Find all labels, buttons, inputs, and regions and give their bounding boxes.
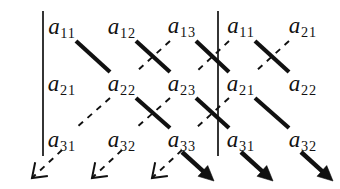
matrix-entry-r2c4: a21 xyxy=(227,72,255,97)
solid-arrow-shaft xyxy=(241,152,265,174)
solid-arrow-shaft xyxy=(182,152,206,174)
entry-base: a xyxy=(48,127,60,152)
entry-subscript: 32 xyxy=(120,138,136,154)
entry-subscript: 11 xyxy=(239,24,255,40)
entry-subscript: 21 xyxy=(239,82,255,98)
sarrus-rule-figure: a11a12a13a11a21a21a22a23a21a22a31a32a33a… xyxy=(0,0,340,189)
matrix-entry-r1c4: a11 xyxy=(227,14,255,39)
entry-base: a xyxy=(289,13,301,38)
entry-subscript: 32 xyxy=(301,138,317,154)
entry-base: a xyxy=(168,71,180,96)
entry-base: a xyxy=(108,71,120,96)
entry-subscript: 21 xyxy=(60,82,76,98)
matrix-entry-r1c1: a11 xyxy=(48,15,76,40)
solid-diagonal xyxy=(255,98,289,128)
entry-base: a xyxy=(227,71,239,96)
entry-subscript: 22 xyxy=(301,82,317,98)
entry-base: a xyxy=(108,14,120,39)
matrix-entry-r3c2: a32 xyxy=(108,128,136,153)
entry-base: a xyxy=(168,13,180,38)
matrix-entry-r3c5: a32 xyxy=(289,128,317,153)
entry-subscript: 13 xyxy=(180,24,196,40)
entry-subscript: 21 xyxy=(301,24,317,40)
positive-direction-arrows-group xyxy=(182,152,333,181)
entry-subscript: 23 xyxy=(180,82,196,98)
entry-base: a xyxy=(168,127,180,152)
matrix-entry-r2c1: a21 xyxy=(48,72,76,97)
entry-base: a xyxy=(227,13,239,38)
matrix-entry-r3c4: a31 xyxy=(227,128,255,153)
dashed-arrow-shaft xyxy=(92,150,122,178)
entry-subscript: 31 xyxy=(60,138,76,154)
matrix-entry-r2c5: a22 xyxy=(289,72,317,97)
dashed-arrow-shaft xyxy=(152,150,182,178)
entry-subscript: 31 xyxy=(239,138,255,154)
matrix-entry-r3c1: a31 xyxy=(48,128,76,153)
solid-arrow-shaft xyxy=(301,152,325,174)
negative-direction-arrows-group xyxy=(32,150,182,178)
matrix-entry-r1c2: a12 xyxy=(108,15,136,40)
entry-base: a xyxy=(48,14,60,39)
matrix-entry-r1c3: a13 xyxy=(168,14,196,39)
entry-base: a xyxy=(227,127,239,152)
entry-subscript: 22 xyxy=(120,82,136,98)
entry-base: a xyxy=(289,71,301,96)
matrix-entry-r3c3: a33 xyxy=(168,128,196,153)
matrix-entry-r2c2: a22 xyxy=(108,72,136,97)
entry-subscript: 33 xyxy=(180,138,196,154)
dashed-diagonal xyxy=(76,98,110,128)
entry-base: a xyxy=(108,127,120,152)
entry-base: a xyxy=(48,71,60,96)
dashed-arrow-shaft xyxy=(32,150,62,178)
matrix-entry-r1c5: a21 xyxy=(289,14,317,39)
entry-subscript: 12 xyxy=(120,25,136,41)
entry-base: a xyxy=(289,127,301,152)
solid-diagonal xyxy=(76,41,110,72)
entry-subscript: 11 xyxy=(60,25,76,41)
matrix-entry-r2c3: a23 xyxy=(168,72,196,97)
